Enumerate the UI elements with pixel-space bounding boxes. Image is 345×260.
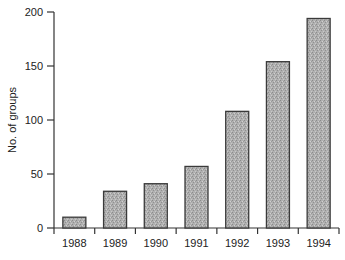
y-tick-label: 100 [25,114,43,126]
x-tick-label: 1989 [103,237,127,249]
bar-1994 [307,18,330,228]
x-tick-label: 1988 [62,237,86,249]
bar-1990 [144,184,167,228]
y-tick-label: 50 [31,168,43,180]
bar-1989 [104,191,127,228]
y-axis-title: No. of groups [6,86,18,153]
x-tick-label: 1990 [144,237,168,249]
x-tick-label: 1994 [306,237,330,249]
bar-1992 [226,111,249,228]
bar-1988 [63,217,86,228]
bar-1991 [185,166,208,228]
y-axis: 050100150200 [25,6,54,234]
bars [63,18,330,228]
x-tick-label: 1992 [225,237,249,249]
y-tick-label: 150 [25,60,43,72]
x-tick-label: 1993 [266,237,290,249]
x-tick-label: 1991 [184,237,208,249]
y-tick-label: 0 [37,222,43,234]
bar-1993 [266,62,289,228]
y-tick-label: 200 [25,6,43,18]
bar-chart: 050100150200 198819891990199119921993199… [0,0,345,260]
x-axis: 1988198919901991199219931994 [54,228,339,249]
